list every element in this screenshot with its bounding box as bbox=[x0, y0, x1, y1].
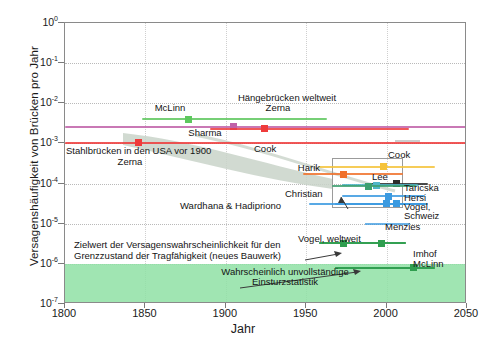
y-tick-label: 10-1 bbox=[22, 55, 58, 68]
label-lee: Lee bbox=[372, 172, 388, 183]
x-tick-label: 1850 bbox=[122, 307, 166, 319]
label-zielwert-2: Grenzzustand der Tragfähigkeit (neues Ba… bbox=[74, 251, 281, 262]
x-tick-label: 2000 bbox=[364, 307, 408, 319]
y-tick-label: 10-4 bbox=[22, 176, 58, 189]
data-point-marker bbox=[385, 193, 392, 200]
x-tick-mark bbox=[225, 303, 226, 308]
data-point-marker bbox=[185, 116, 192, 123]
y-tick-label: 10-3 bbox=[22, 135, 58, 148]
data-point-marker bbox=[365, 183, 372, 190]
data-range-bar bbox=[142, 118, 327, 120]
label-vogel-weltweit: Vogel, weltweit bbox=[298, 234, 361, 245]
data-point-marker bbox=[340, 171, 347, 178]
x-tick-mark bbox=[386, 303, 387, 308]
label-menzies: Menzies bbox=[385, 222, 420, 233]
x-axis-title: Jahr bbox=[0, 322, 486, 336]
label-zielwert-1: Zielwert der Versagenswahrscheinlichkeit… bbox=[74, 240, 280, 251]
label-zerna-bottom: Zerna bbox=[100, 157, 160, 168]
data-range-bar bbox=[319, 166, 435, 168]
data-point-marker bbox=[261, 125, 268, 132]
label-harik: Harik bbox=[278, 163, 320, 174]
y-axis-title: Versagenshäufigkeit von Brücken pro Jahr bbox=[28, 36, 40, 276]
x-tick-label: 2050 bbox=[444, 307, 486, 319]
label-zerna-top: Zerna bbox=[248, 103, 308, 114]
label-mclinn-bottom: McLinn bbox=[413, 259, 444, 270]
label-wardhana: Wardhana & Hadipriono bbox=[180, 201, 281, 212]
x-tick-mark bbox=[305, 303, 306, 308]
data-point-marker bbox=[383, 200, 390, 207]
x-tick-label: 1800 bbox=[42, 307, 86, 319]
chart-root: Versagenshäufigkeit von Brücken pro Jahr… bbox=[0, 0, 486, 344]
label-cook-left: Cook bbox=[254, 144, 276, 155]
y-tick-label: 100 bbox=[22, 15, 58, 28]
label-sharma: Sharma bbox=[175, 128, 235, 139]
data-range-bar bbox=[210, 128, 409, 130]
label-stahlbruecken: Stahlbrücken in den USA vor 1900 bbox=[66, 146, 211, 157]
x-tick-mark bbox=[466, 303, 467, 308]
label-cook-right: Cook bbox=[388, 150, 410, 161]
y-tick-label: 10-2 bbox=[22, 95, 58, 108]
data-point-marker bbox=[380, 163, 387, 170]
x-tick-label: 1900 bbox=[203, 307, 247, 319]
label-vogel-schweiz-2: Schweiz bbox=[404, 211, 439, 222]
label-christian: Christian bbox=[285, 189, 323, 200]
label-einsturz-2: Einsturzstatistik bbox=[210, 277, 360, 288]
y-tick-label: 10-5 bbox=[22, 216, 58, 229]
x-tick-label: 1950 bbox=[283, 307, 327, 319]
gridline-horizontal bbox=[65, 63, 465, 64]
y-tick-label: 10-6 bbox=[22, 256, 58, 269]
x-tick-mark bbox=[144, 303, 145, 308]
data-range-bar bbox=[332, 185, 416, 187]
label-mclinn-top: McLinn bbox=[140, 103, 200, 114]
x-tick-mark bbox=[64, 303, 65, 308]
